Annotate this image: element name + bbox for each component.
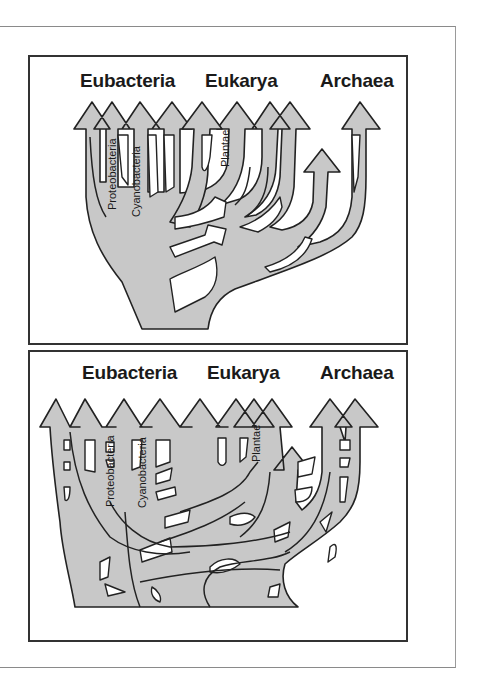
lineage-label-proteobacteria: Proteobacteria xyxy=(104,435,116,507)
lineage-label-cyanobacteria: Cyanobacteria xyxy=(136,437,148,508)
domain-label-eukarya: Eukarya xyxy=(205,70,278,92)
domain-label-eubacteria: Eubacteria xyxy=(80,70,175,92)
domain-label-eukarya: Eukarya xyxy=(207,362,280,384)
tree-diagram-top xyxy=(30,57,406,343)
lineage-label-cyanobacteria: Cyanobacteria xyxy=(130,146,142,217)
tree-panel-bottom: Eubacteria Eukarya Archaea Proteobacteri… xyxy=(28,350,408,642)
domain-label-archaea: Archaea xyxy=(320,362,394,384)
lineage-label-proteobacteria: Proteobacteria xyxy=(106,138,118,210)
domain-label-archaea: Archaea xyxy=(320,70,394,92)
tree-diagram-bottom xyxy=(30,352,406,640)
lineage-label-plantae: Plantae xyxy=(219,130,231,167)
tree-panel-top: Eubacteria Eukarya Archaea Proteobacteri… xyxy=(28,55,408,345)
domain-label-eubacteria: Eubacteria xyxy=(82,362,177,384)
lineage-label-plantae: Plantae xyxy=(250,425,262,462)
